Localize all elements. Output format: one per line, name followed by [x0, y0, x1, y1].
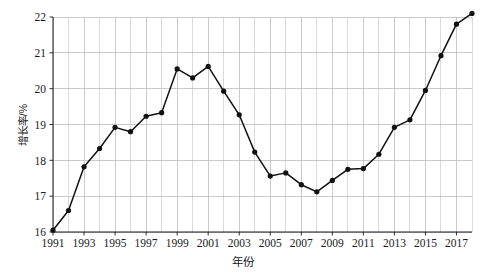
x-axis-title: 年份 [232, 255, 255, 268]
data-point-marker [423, 88, 428, 93]
data-point-marker [361, 166, 366, 171]
y-tick-label: 21 [35, 47, 47, 59]
data-point-marker [392, 125, 397, 130]
y-tick-label: 20 [35, 83, 47, 95]
x-tick-label: 2009 [321, 237, 344, 249]
x-tick-label: 2003 [228, 237, 251, 249]
data-point-marker [206, 64, 211, 69]
data-point-marker [345, 167, 350, 172]
data-point-marker [128, 129, 133, 134]
data-point-marker [407, 117, 412, 122]
data-point-marker [252, 149, 257, 154]
x-tick-label: 2001 [197, 237, 220, 249]
data-point-marker [314, 189, 319, 194]
x-tick-label: 1993 [73, 237, 96, 249]
x-tick-label: 2015 [414, 237, 437, 249]
line-chart: 1991199319951997199920012003200520072009… [0, 0, 485, 273]
data-point-marker [97, 146, 102, 151]
y-tick-label: 16 [35, 226, 47, 238]
data-point-marker [66, 208, 71, 213]
y-tick-label: 22 [35, 11, 47, 23]
x-tick-label: 1999 [166, 237, 189, 249]
x-tick-label: 1997 [135, 237, 158, 249]
data-point-marker [144, 114, 149, 119]
y-tick-label: 17 [35, 190, 47, 202]
x-tick-label: 2005 [259, 237, 282, 249]
data-point-marker [299, 182, 304, 187]
x-tick-label: 1995 [104, 237, 127, 249]
chart-canvas: 1991199319951997199920012003200520072009… [0, 0, 485, 273]
data-point-marker [237, 112, 242, 117]
x-tick-label: 2013 [383, 237, 406, 249]
x-tick-label: 1991 [42, 237, 65, 249]
x-tick-label: 2011 [352, 237, 375, 249]
data-point-marker [469, 11, 474, 16]
data-point-marker [221, 89, 226, 94]
data-point-marker [438, 53, 443, 58]
data-point-marker [81, 164, 86, 169]
x-tick-label: 2017 [445, 237, 468, 249]
data-point-marker [454, 22, 459, 27]
y-tick-label: 19 [35, 119, 47, 131]
data-point-marker [376, 152, 381, 157]
data-point-marker [330, 178, 335, 183]
data-point-marker [50, 228, 55, 233]
data-point-marker [159, 110, 164, 115]
data-point-marker [112, 125, 117, 130]
data-point-marker [283, 170, 288, 175]
data-point-marker [268, 174, 273, 179]
data-point-marker [190, 75, 195, 80]
x-tick-label: 2007 [290, 237, 313, 249]
y-axis-title: 增长率/% [17, 104, 29, 146]
y-tick-label: 18 [35, 155, 47, 167]
data-point-marker [175, 66, 180, 71]
